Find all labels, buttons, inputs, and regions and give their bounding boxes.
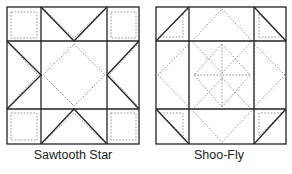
shoo-fly-diagram [146,0,292,148]
sawtooth-star-diagram [0,0,146,148]
shoo-fly-block: Shoo-Fly [146,0,292,174]
shoo-fly-label: Shoo-Fly [146,148,292,162]
sawtooth-star-block: Sawtooth Star [0,0,146,174]
sawtooth-star-label: Sawtooth Star [0,148,146,162]
